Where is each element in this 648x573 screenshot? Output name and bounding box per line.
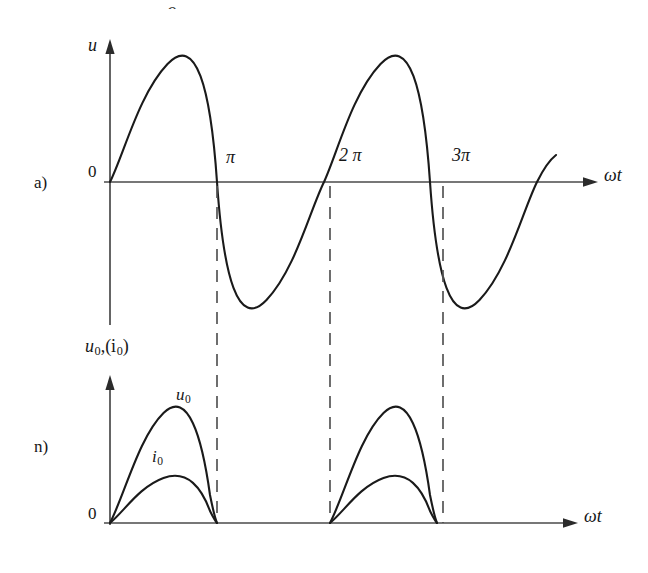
panel-b-i0-curve-label-sub: 0: [157, 455, 163, 468]
waveform-figure: o: [0, 0, 648, 573]
panel-b-y-axis-label-u-sub: 0: [94, 344, 101, 358]
panel-a-tick-pi: π: [226, 148, 235, 166]
panel-b-i0-curve-label: i0: [152, 448, 163, 467]
panel-b-u0-curve-label-base: u: [176, 385, 185, 404]
panel-b-origin-label: 0: [88, 505, 97, 522]
panel-a-tick-2pi: 2 π: [339, 146, 362, 164]
panel-a-x-axis-label: ωt: [604, 166, 622, 184]
panel-a-graphics: [104, 39, 598, 325]
panel-b-u0-curve-label-sub: 0: [185, 393, 191, 406]
panel-b-x-axis-label: ωt: [584, 507, 602, 525]
figure-canvas: [0, 0, 648, 573]
panel-a-y-axis-label: u: [88, 36, 97, 54]
panel-a-tick-3pi: 3π: [452, 146, 470, 164]
panel-b-u0-curve-label: u0: [176, 386, 191, 405]
panel-b-y-axis-label: u0,(i0): [85, 337, 129, 357]
panel-b-marker: n): [34, 438, 48, 455]
panel-b-y-axis-label-close: ): [123, 336, 129, 356]
panel-b-y-axis-label-u: u: [85, 336, 94, 356]
panel-a-marker: a): [34, 174, 47, 191]
panel-b-x-axis-arrow-icon: [563, 518, 578, 528]
panel-b-y-axis-arrow-icon: [105, 375, 114, 390]
panel-a-origin-label: 0: [88, 163, 97, 180]
panel-b-y-axis-label-i-sub: 0: [116, 344, 123, 358]
panel-b-y-axis-label-mid: ,(i: [101, 336, 117, 356]
panel-a-y-axis-arrow-icon: [105, 39, 114, 54]
dashed-connectors: [217, 186, 443, 523]
panel-a-x-axis-arrow-icon: [583, 177, 598, 187]
